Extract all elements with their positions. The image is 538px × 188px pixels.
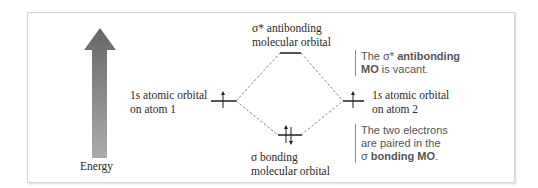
antibonding-label: σ* antibonding molecular orbital xyxy=(252,21,331,49)
antibonding-label-line2: molecular orbital xyxy=(252,35,331,49)
atom1-label-line1: 1s atomic orbital xyxy=(130,88,207,102)
bonding-label-line2: molecular orbital xyxy=(251,164,330,178)
atom2-label: 1s atomic orbital on atom 2 xyxy=(372,88,449,116)
atom2-orbital-level xyxy=(343,93,364,108)
antibonding-note: The σ* antibonding MO is vacant. xyxy=(355,50,460,76)
atom1-label-line2: on atom 1 xyxy=(130,102,207,116)
correlation-lines xyxy=(236,53,343,135)
bonding-note: The two electrons are paired in the σ bo… xyxy=(355,124,448,163)
bonding-label-line1: σ bonding xyxy=(251,150,330,164)
antibonding-label-line1: σ* antibonding xyxy=(252,21,331,35)
atom2-label-line1: 1s atomic orbital xyxy=(372,88,449,102)
bonding-orbital-level xyxy=(278,127,302,143)
atom1-orbital-level xyxy=(211,93,236,108)
atom2-label-line2: on atom 2 xyxy=(372,102,449,116)
bonding-label: σ bonding molecular orbital xyxy=(251,150,330,178)
atom1-label: 1s atomic orbital on atom 1 xyxy=(130,88,207,116)
energy-axis-label: Energy xyxy=(80,159,113,173)
energy-arrow-icon xyxy=(84,28,116,158)
